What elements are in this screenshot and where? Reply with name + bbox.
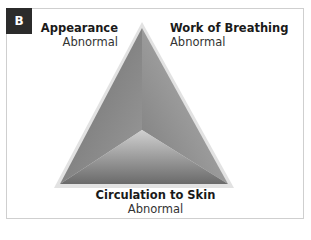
circulation-status: Abnormal bbox=[0, 202, 311, 216]
appearance-status: Abnormal bbox=[26, 35, 118, 49]
circulation-title: Circulation to Skin bbox=[0, 188, 311, 202]
work-of-breathing-title: Work of Breathing bbox=[170, 21, 288, 35]
label-appearance: Appearance Abnormal bbox=[26, 21, 118, 49]
label-circulation: Circulation to Skin Abnormal bbox=[0, 188, 311, 216]
label-work-of-breathing: Work of Breathing Abnormal bbox=[170, 21, 288, 49]
work-of-breathing-status: Abnormal bbox=[170, 35, 288, 49]
appearance-title: Appearance bbox=[26, 21, 118, 35]
